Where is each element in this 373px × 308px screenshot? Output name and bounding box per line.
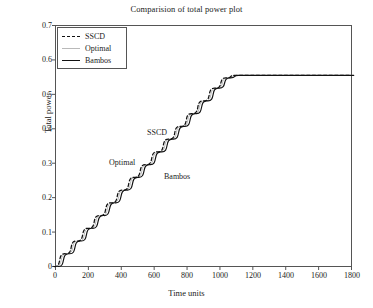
legend-entry-optimal: Optimal (61, 43, 124, 55)
solid-line-swatch-icon (61, 56, 81, 66)
legend-label: Optimal (85, 45, 111, 53)
legend: SSCD Optimal Bambos (57, 27, 127, 69)
legend-label: SSCD (85, 33, 105, 41)
series-optimal (56, 75, 352, 266)
series-bambos (58, 75, 354, 266)
legend-entry-bambos: Bambos (61, 55, 124, 67)
light-line-swatch-icon (61, 44, 81, 54)
dashed-line-swatch-icon (61, 32, 81, 42)
legend-entry-sscd: SSCD (61, 31, 124, 43)
annotation-sscd: SSCD (147, 128, 167, 137)
chart-figure: Comparision of total power plot Total po… (0, 0, 373, 308)
annotation-bambos: Bambos (164, 172, 190, 181)
legend-label: Bambos (85, 57, 111, 65)
plot-area (0, 0, 373, 308)
data-curves (54, 75, 354, 266)
annotation-optimal: Optimal (109, 158, 135, 167)
